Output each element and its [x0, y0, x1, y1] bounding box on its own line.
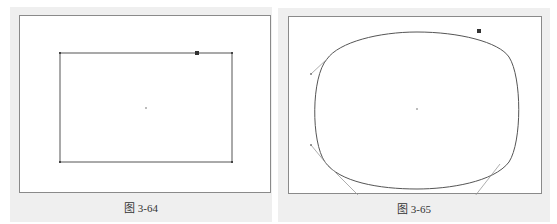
handle-point	[310, 73, 312, 75]
selected-anchor-point	[195, 51, 199, 55]
figure-caption: 图 3-65	[278, 200, 550, 216]
canvas-rectangle	[19, 15, 271, 193]
direction-handle	[325, 162, 360, 195]
anchor-point	[231, 52, 233, 54]
center-point	[416, 108, 418, 110]
canvas-rounded-shape	[288, 16, 542, 194]
anchor-point	[59, 52, 61, 54]
curved-path	[315, 32, 519, 189]
direction-handle	[311, 59, 327, 74]
direction-handle	[475, 164, 500, 195]
figure-caption: 图 3-64	[10, 199, 272, 215]
handle-point	[310, 144, 312, 146]
direction-handle	[311, 145, 325, 162]
anchor-point	[231, 161, 233, 163]
figure-3-64: 图 3-64	[10, 7, 272, 222]
curved-path-drawing	[289, 17, 543, 195]
center-point	[145, 107, 147, 109]
figure-3-65: 图 3-65	[278, 8, 550, 222]
rectangle-path-drawing	[20, 16, 272, 194]
anchor-point	[59, 161, 61, 163]
selected-anchor-point	[477, 29, 481, 33]
